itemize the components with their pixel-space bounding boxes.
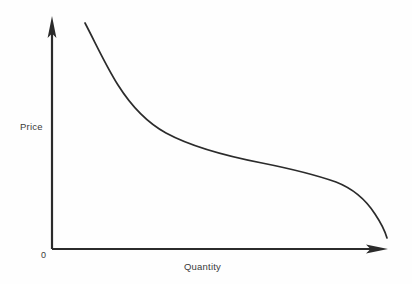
origin-label: 0 — [41, 250, 46, 261]
plot-canvas — [0, 0, 412, 284]
demand-curve-figure: Price Quantity 0 — [0, 0, 412, 284]
demand-curve-path — [85, 23, 387, 238]
quantity-axis-label: Quantity — [184, 261, 221, 272]
price-axis-label: Price — [20, 121, 43, 132]
